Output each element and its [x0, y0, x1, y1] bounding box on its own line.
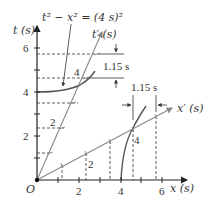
- origin-dot: [35, 178, 39, 182]
- t-axis-label: t (s): [13, 24, 35, 37]
- time-dilation-label: 1.15 s: [103, 60, 129, 72]
- x-tick-2: 2: [76, 185, 82, 197]
- x-prime-axis: [37, 108, 172, 180]
- primed-axis-ticks: [47, 53, 157, 168]
- equation-label: t² − x² = (4 s)²: [42, 11, 123, 24]
- equation-pointer-arrow: [63, 24, 71, 86]
- x-axis-label: x (s): [170, 182, 194, 195]
- t-tick-4: 4: [23, 86, 29, 98]
- x-prime-axis-label: x′ (s): [177, 102, 203, 115]
- t-prime-tick-2-label: 2: [50, 116, 56, 128]
- origin-label: O: [26, 183, 35, 196]
- t-tick-2: 2: [23, 130, 29, 142]
- x-tick-6: 6: [159, 185, 165, 197]
- x-prime-tick-2-label: 2: [88, 158, 94, 170]
- t-tick-6: 6: [23, 42, 29, 54]
- x-tick-4: 4: [118, 185, 124, 197]
- t-prime-axis-label: t′ (s): [92, 28, 117, 41]
- t-prime-tick-4-label: 4: [74, 66, 80, 78]
- spacetime-diagram: t² − x² = (4 s)² t (s) t′ (s) x′ (s) x (…: [0, 0, 207, 203]
- hyperbola-timelike: [37, 71, 95, 92]
- x-prime-tick-4-label: 4: [134, 134, 140, 146]
- length-interval-label: 1.15 s: [131, 81, 157, 93]
